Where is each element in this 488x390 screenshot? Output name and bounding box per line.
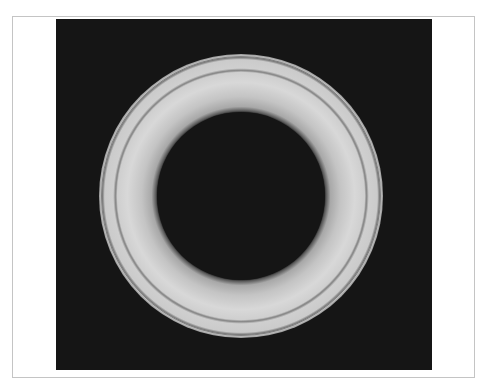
ring-graphic: [56, 19, 432, 370]
black-background-plate: [56, 19, 432, 370]
ring-hole: [157, 112, 325, 280]
